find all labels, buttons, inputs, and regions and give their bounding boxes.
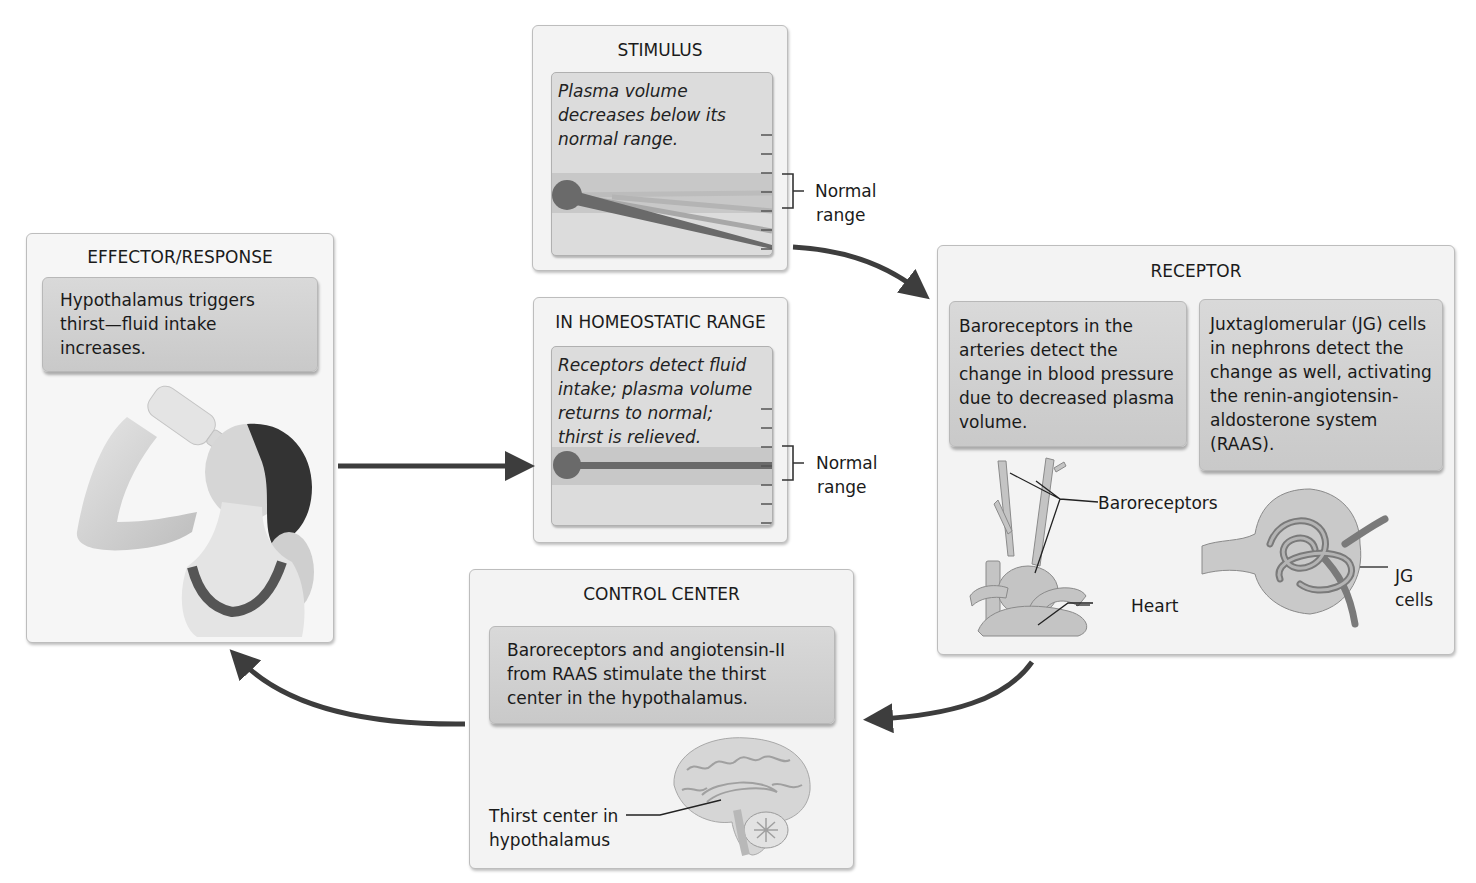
control-center-title: CONTROL CENTER: [470, 584, 853, 604]
homeostatic-range-bracket: [780, 444, 810, 484]
effector-note: Hypothalamus triggers thirst—fluid intak…: [42, 277, 318, 372]
glomerulus-jg-cells-illustration: [1200, 484, 1400, 634]
person-drinking-water-illustration: [57, 382, 317, 637]
homeostatic-gauge: Receptors detect fluid intake; plasma vo…: [551, 346, 773, 526]
homeostatic-description: Receptors detect fluid intake; plasma vo…: [558, 353, 752, 449]
arrow-control-center-to-effector: [240, 660, 465, 724]
arrow-receptor-to-control-center: [878, 662, 1032, 719]
control-center-note: Baroreceptors and angiotensin-II from RA…: [489, 626, 835, 724]
thirst-center-leader-line: [626, 796, 736, 826]
receptor-card: RECEPTOR Baroreceptors in the arteries d…: [937, 245, 1455, 655]
jg-cells-note: Juxtaglomerular (JG) cells in nephrons d…: [1199, 299, 1443, 471]
stimulus-title: STIMULUS: [533, 40, 787, 60]
effector-card: EFFECTOR/RESPONSE Hypothalamus triggers …: [26, 233, 334, 643]
stimulus-card: STIMULUS Plasma volume decreases below i…: [532, 25, 788, 271]
baroreceptor-note: Baroreceptors in the arteries detect the…: [949, 301, 1187, 447]
stimulus-gauge: Plasma volume decreases below its normal…: [551, 72, 773, 256]
homeostatic-card: IN HOMEOSTATIC RANGE Receptors detect fl…: [533, 297, 788, 543]
arrow-stimulus-to-receptor: [793, 247, 918, 290]
heart-label: Heart: [1131, 594, 1178, 618]
stimulus-description: Plasma volume decreases below its normal…: [558, 79, 726, 151]
stimulus-normal-range-label: Normal range: [815, 179, 877, 227]
jg-cells-label: JG cells: [1395, 564, 1433, 612]
homeostatic-normal-range-label: Normal range: [816, 451, 878, 499]
baroreceptor-leader-lines: [988, 461, 1188, 601]
brain-illustration: [662, 730, 822, 860]
stimulus-range-bracket: [780, 172, 810, 212]
effector-title: EFFECTOR/RESPONSE: [27, 247, 333, 267]
receptor-title: RECEPTOR: [938, 261, 1454, 281]
control-center-card: CONTROL CENTER Baroreceptors and angiote…: [469, 569, 854, 869]
homeostatic-title: IN HOMEOSTATIC RANGE: [534, 312, 787, 332]
heart-leader-line: [1038, 591, 1118, 631]
thirst-center-label: Thirst center in hypothalamus: [489, 804, 618, 852]
